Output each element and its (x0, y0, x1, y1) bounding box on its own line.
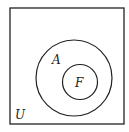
venn-diagram: A F U (0, 0, 129, 132)
universe-rectangle (10, 8, 124, 124)
set-a-circle (36, 40, 112, 116)
set-f-label: F (74, 76, 84, 90)
universe-label: U (15, 108, 26, 122)
set-a-label: A (51, 53, 61, 67)
